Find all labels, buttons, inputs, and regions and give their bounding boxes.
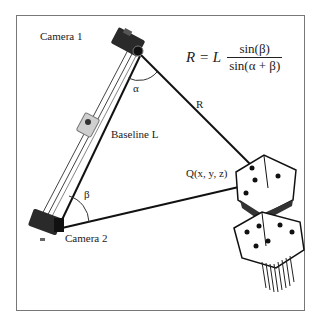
formula-denominator: sin(α + β) <box>227 58 282 74</box>
dice-icon <box>234 155 304 292</box>
target-point-label: Q(x, y, z) <box>186 167 227 179</box>
range-formula: R = L sin(β) sin(α + β) <box>186 41 282 74</box>
range-label: R <box>196 98 203 110</box>
camera1-icon <box>111 27 146 57</box>
camera1-label: Camera 1 <box>40 30 82 42</box>
carriage-icon <box>76 112 100 137</box>
alpha-label: α <box>133 82 139 94</box>
camera2-icon <box>28 208 64 241</box>
formula-lhs: R = L <box>186 49 221 66</box>
camera2-ray <box>62 183 256 228</box>
formula-fraction: sin(β) sin(α + β) <box>227 41 282 74</box>
formula-numerator: sin(β) <box>237 41 271 57</box>
camera2-label: Camera 2 <box>65 232 107 244</box>
beta-label: β <box>84 188 90 200</box>
baseline-label: Baseline L <box>111 128 158 140</box>
